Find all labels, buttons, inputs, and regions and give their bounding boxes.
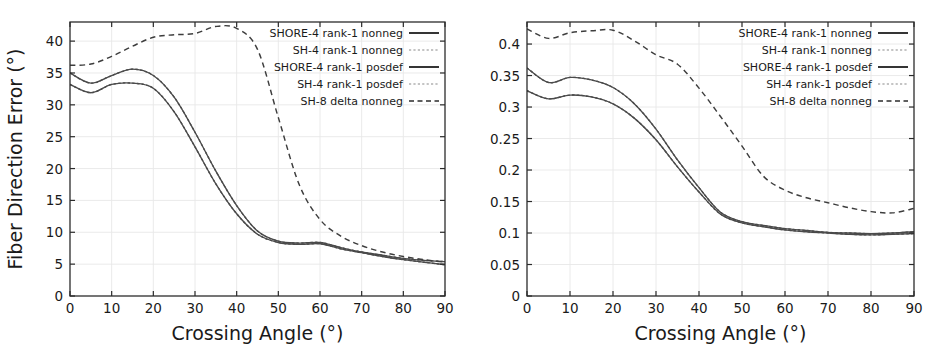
y-tick-label: 30 — [46, 97, 63, 113]
x-tick-label: 20 — [145, 300, 162, 316]
two-panel-figure: 01020304050607080900510152025303540Cross… — [0, 0, 948, 363]
y-tick-label: 20 — [46, 161, 63, 177]
y-tick-label: 0 — [54, 288, 63, 304]
x-tick-label: 20 — [604, 300, 621, 316]
x-tick-label: 90 — [436, 300, 453, 316]
legend-label-4: SH-8 delta nonneg — [770, 95, 872, 108]
legend: SHORE-4 rank-1 nonnegSH-4 rank-1 nonnegS… — [739, 27, 908, 108]
legend: SHORE-4 rank-1 nonnegSH-4 rank-1 nonnegS… — [270, 27, 439, 108]
y-axis-label: Fiber Direction Error (°) — [4, 49, 26, 270]
legend-label-3: SH-4 rank-1 posdef — [766, 78, 873, 91]
y-tick-label: 0.05 — [490, 257, 520, 273]
series-line-2 — [70, 83, 445, 265]
x-axis-label: Crossing Angle (°) — [172, 322, 344, 344]
x-tick-label: 40 — [690, 300, 707, 316]
x-tick-label: 10 — [103, 300, 120, 316]
x-tick-label: 30 — [647, 300, 664, 316]
y-tick-label: 0.1 — [499, 225, 520, 241]
legend-label-3: SH-4 rank-1 posdef — [297, 78, 404, 91]
y-tick-label: 5 — [54, 256, 63, 272]
series-line-2 — [527, 91, 914, 235]
panel-fiber-direction-error: 01020304050607080900510152025303540Cross… — [0, 0, 474, 363]
y-tick-label: 0.35 — [490, 68, 520, 84]
x-tick-label: 50 — [733, 300, 750, 316]
y-tick-label: 0.2 — [499, 162, 520, 178]
panel-volume-fraction-error: 010203040506070809000.050.10.150.20.250.… — [474, 0, 948, 363]
y-tick-label: 0.3 — [499, 99, 520, 115]
y-tick-label: 0 — [511, 288, 520, 304]
x-tick-label: 90 — [905, 300, 922, 316]
y-tick-label: 25 — [46, 129, 63, 145]
legend-label-2: SHORE-4 rank-1 posdef — [274, 61, 404, 74]
series-line-3 — [70, 83, 445, 265]
x-tick-label: 60 — [311, 300, 328, 316]
x-tick-label: 10 — [561, 300, 578, 316]
y-tick-label: 15 — [46, 192, 63, 208]
legend-label-1: SH-4 rank-1 nonneg — [762, 44, 872, 57]
legend-label-0: SHORE-4 rank-1 nonneg — [739, 27, 872, 40]
legend-label-0: SHORE-4 rank-1 nonneg — [270, 27, 403, 40]
x-tick-label: 0 — [66, 300, 75, 316]
volume-fraction-error-chart: 010203040506070809000.050.10.150.20.250.… — [474, 0, 948, 363]
series-line-3 — [527, 91, 914, 235]
legend-label-1: SH-4 rank-1 nonneg — [293, 44, 403, 57]
legend-label-4: SH-8 delta nonneg — [301, 95, 403, 108]
x-tick-label: 30 — [186, 300, 203, 316]
legend-label-2: SHORE-4 rank-1 posdef — [743, 61, 873, 74]
x-tick-label: 40 — [228, 300, 245, 316]
x-tick-label: 50 — [270, 300, 287, 316]
x-tick-label: 70 — [353, 300, 370, 316]
x-tick-label: 70 — [819, 300, 836, 316]
y-tick-label: 0.4 — [499, 36, 520, 52]
x-axis-label: Crossing Angle (°) — [635, 322, 807, 344]
y-tick-label: 0.25 — [490, 131, 520, 147]
x-tick-label: 60 — [776, 300, 793, 316]
series-group — [527, 29, 914, 235]
y-tick-label: 40 — [46, 33, 63, 49]
y-tick-label: 35 — [46, 65, 63, 81]
x-tick-label: 80 — [395, 300, 412, 316]
y-tick-label: 0.15 — [490, 194, 520, 210]
x-tick-label: 0 — [523, 300, 532, 316]
x-tick-label: 80 — [862, 300, 879, 316]
fiber-direction-error-chart: 01020304050607080900510152025303540Cross… — [0, 0, 474, 363]
y-tick-label: 10 — [46, 224, 63, 240]
